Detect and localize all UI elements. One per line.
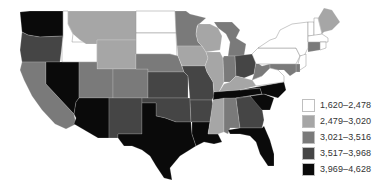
legend-item: 3,021–3,516 (302, 129, 371, 145)
legend-label: 3,021–3,516 (320, 132, 371, 142)
map-legend: 1,620–2,478 2,479–3,020 3,021–3,516 3,51… (302, 97, 371, 177)
state-pennsylvania (252, 48, 300, 64)
state-delaware (296, 64, 300, 72)
legend-swatch (302, 99, 315, 112)
state-shapes (20, 8, 340, 180)
state-maine (318, 8, 340, 34)
state-south-dakota (136, 33, 177, 56)
legend-label: 1,620–2,478 (320, 100, 371, 110)
legend-item: 2,479–3,020 (302, 113, 371, 129)
state-north-dakota (136, 11, 176, 33)
state-washington (20, 11, 63, 37)
legend-swatch (302, 163, 315, 176)
state-new-mexico (109, 98, 142, 138)
legend-swatch (302, 147, 315, 160)
legend-label: 3,969–4,628 (320, 164, 371, 174)
legend-item: 1,620–2,478 (302, 97, 371, 113)
state-kansas (148, 72, 188, 98)
state-montana (68, 11, 136, 44)
legend-label: 2,479–3,020 (320, 116, 371, 126)
state-florida (228, 126, 274, 166)
state-iowa (177, 46, 208, 66)
state-wyoming (97, 40, 136, 69)
legend-swatch (302, 115, 315, 128)
state-vermont (308, 22, 314, 36)
legend-item: 3,969–4,628 (302, 161, 371, 177)
legend-label: 3,517–3,968 (320, 148, 371, 158)
state-arizona (74, 98, 109, 138)
legend-item: 3,517–3,968 (302, 145, 371, 161)
state-colorado (113, 69, 148, 98)
state-rhode-island (320, 42, 326, 50)
state-arkansas (190, 100, 213, 122)
legend-swatch (302, 131, 315, 144)
state-ohio (235, 54, 256, 78)
state-connecticut (308, 42, 320, 52)
